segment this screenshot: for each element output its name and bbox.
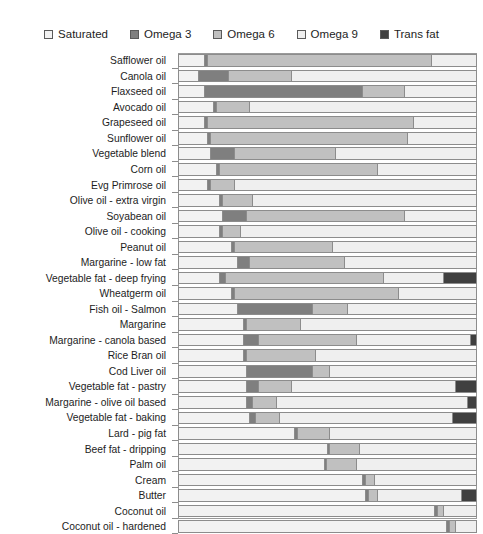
bar-segment-saturated (178, 179, 208, 192)
chart-row (178, 364, 477, 380)
bar-segment-saturated (178, 334, 244, 347)
bar-segment-saturated (178, 458, 325, 471)
y-axis-label: Evg Primrose oil (0, 177, 172, 193)
bar-segment-saturated (178, 520, 447, 533)
bar-segment-omega-6 (223, 225, 241, 238)
bar-segment-omega-6 (256, 412, 280, 425)
bar-segment-omega-9 (277, 396, 468, 409)
chart-row (178, 457, 477, 473)
legend-item-saturated: Saturated (44, 29, 108, 40)
bar-segment-saturated (178, 147, 211, 160)
chart-row (178, 193, 477, 209)
y-axis-label: Beef fat - dripping (0, 441, 172, 457)
stacked-bar (178, 520, 477, 533)
bar-segment-omega-6 (211, 179, 235, 192)
chart-row (178, 503, 477, 519)
stacked-bar (178, 225, 477, 238)
chart-row (178, 208, 477, 224)
bar-segment-omega-6 (226, 272, 384, 285)
bar-segment-omega-9 (405, 210, 477, 223)
stacked-bar (178, 318, 477, 331)
stacked-bar (178, 179, 477, 192)
bar-segment-trans-fat (471, 334, 477, 347)
bar-segment-omega-9 (348, 303, 477, 316)
chart-row (178, 333, 477, 349)
y-axis-label: Vegetable fat - pastry (0, 379, 172, 395)
bar-segment-omega-6 (235, 287, 399, 300)
bar-segment-omega-6 (369, 489, 378, 502)
legend-label: Saturated (58, 29, 108, 40)
chart-row (178, 472, 477, 488)
chart-row (178, 100, 477, 116)
bar-segment-omega-9 (375, 474, 477, 487)
chart-row (178, 255, 477, 271)
bar-segment-omega-6 (253, 396, 277, 409)
chart-row (178, 177, 477, 193)
chart-row (178, 519, 477, 534)
y-axis-label: Rice Bran oil (0, 348, 172, 364)
square-swatch-icon (297, 30, 306, 39)
bar-segment-omega-3 (223, 210, 247, 223)
bar-segment-saturated (178, 54, 205, 67)
y-axis-label: Coconut oil - hardened (0, 519, 172, 534)
bar-segment-omega-6 (229, 70, 292, 83)
bar-segment-saturated (178, 163, 217, 176)
chart-row (178, 270, 477, 286)
bar-segment-omega-9 (414, 116, 477, 129)
bar-segment-omega-6 (217, 101, 250, 114)
legend-label: Trans fat (394, 29, 439, 40)
y-axis-label: Olive oil - extra virgin (0, 193, 172, 209)
stacked-bar (178, 241, 477, 254)
bar-segment-omega-9 (345, 256, 477, 269)
bar-segment-trans-fat (453, 412, 477, 425)
bar-segment-omega-9 (235, 179, 477, 192)
bar-segment-omega-9 (357, 334, 471, 347)
bar-segment-saturated (178, 349, 244, 362)
stacked-bar (178, 334, 477, 347)
bar-segment-omega-6 (259, 380, 292, 393)
stacked-bar (178, 412, 477, 425)
y-axis-label: Avocado oil (0, 100, 172, 116)
bar-segment-saturated (178, 101, 214, 114)
legend-label: Omega 6 (227, 29, 274, 40)
bar-segment-omega-3 (199, 70, 229, 83)
chart-row (178, 379, 477, 395)
chart-row (178, 162, 477, 178)
bar-segment-saturated (178, 318, 244, 331)
stacked-bar (178, 287, 477, 300)
bar-segment-omega-9 (405, 85, 477, 98)
y-axis-label: Cream (0, 472, 172, 488)
bar-segment-saturated (178, 412, 250, 425)
bar-segment-saturated (178, 505, 435, 518)
square-swatch-icon (44, 30, 53, 39)
bar-segment-omega-6 (247, 349, 316, 362)
chart-row (178, 348, 477, 364)
bar-segment-omega-3 (211, 147, 235, 160)
y-axis-label: Coconut oil (0, 503, 172, 519)
y-axis-label: Safflower oil (0, 53, 172, 69)
bar-segment-omega-3 (247, 365, 313, 378)
bar-segment-omega-6 (330, 443, 360, 456)
bar-segment-omega-9 (253, 194, 477, 207)
bar-segment-omega-6 (211, 132, 408, 145)
bar-segment-saturated (178, 70, 199, 83)
bar-segment-omega-9 (333, 241, 477, 254)
stacked-bar (178, 505, 477, 518)
bar-segment-omega-6 (208, 54, 432, 67)
bar-segment-saturated (178, 489, 366, 502)
stacked-bar (178, 303, 477, 316)
chart-row (178, 317, 477, 333)
bar-segment-omega-6 (220, 163, 378, 176)
y-axis-label: Margarine - olive oil based (0, 395, 172, 411)
bar-segment-omega-6 (235, 241, 334, 254)
y-axis-label: Olive oil - cooking (0, 224, 172, 240)
y-axis-label: Butter (0, 488, 172, 504)
bar-segment-omega-9 (378, 163, 477, 176)
chart-row (178, 69, 477, 85)
stacked-bar (178, 70, 477, 83)
chart-legend: Saturated Omega 3 Omega 6 Omega 9 Trans … (0, 26, 483, 42)
bar-segment-saturated (178, 132, 208, 145)
stacked-bar (178, 349, 477, 362)
bar-segment-omega-9 (280, 412, 453, 425)
stacked-bar (178, 396, 477, 409)
